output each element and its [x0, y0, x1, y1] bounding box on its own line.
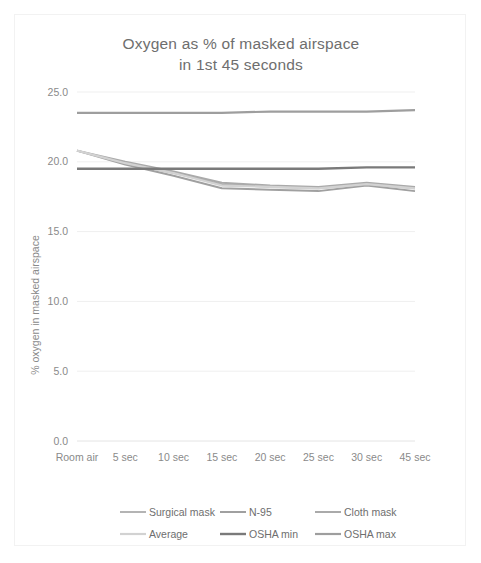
y-tick-label: 10.0 [48, 295, 69, 307]
y-tick-label: 15.0 [48, 225, 69, 237]
y-tick-label: 25.0 [48, 86, 69, 98]
legend-label-osha-max[interactable]: OSHA max [344, 528, 397, 540]
y-tick-label: 20.0 [48, 155, 69, 167]
gridlines [77, 92, 415, 441]
x-tick-label: 25 sec [303, 451, 334, 463]
x-tick-label: 10 sec [158, 451, 189, 463]
x-tick-label: 15 sec [206, 451, 237, 463]
x-tick-label: Room air [56, 451, 99, 463]
legend-label-surgical-mask[interactable]: Surgical mask [149, 506, 216, 518]
x-axis-tick-labels: Room air5 sec10 sec15 sec20 sec25 sec30 … [56, 451, 431, 463]
y-tick-label: 0.0 [53, 435, 68, 447]
legend-label-average[interactable]: Average [149, 528, 188, 540]
x-tick-label: 20 sec [255, 451, 286, 463]
y-axis-title: % oxygen in masked airspace [29, 235, 41, 375]
legend-label-cloth-mask[interactable]: Cloth mask [344, 506, 397, 518]
y-axis-tick-labels: 0.05.010.015.020.025.0 [48, 86, 69, 447]
legend-label-osha-min[interactable]: OSHA min [249, 528, 298, 540]
legend-label-n-95[interactable]: N-95 [249, 506, 272, 518]
svg-text:% oxygen in masked airspace: % oxygen in masked airspace [29, 235, 41, 375]
series-line-osha-min [77, 167, 415, 168]
series-line-osha-max [77, 110, 415, 113]
line-chart-plot: 0.05.010.015.020.025.0 Room air5 sec10 s… [15, 15, 467, 547]
x-tick-label: 30 sec [351, 451, 382, 463]
series-lines [77, 110, 415, 191]
chart-card: Oxygen as % of masked airspace in 1st 45… [14, 14, 466, 546]
y-tick-label: 5.0 [53, 365, 68, 377]
x-tick-label: 5 sec [113, 451, 138, 463]
x-tick-label: 45 sec [400, 451, 431, 463]
chart-legend: Surgical maskN-95Cloth maskAverageOSHA m… [120, 506, 397, 540]
